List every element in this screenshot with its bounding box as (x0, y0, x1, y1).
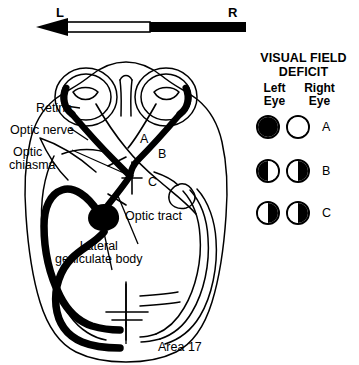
right-lgb-outline (169, 184, 195, 209)
orientation-arrow-graphic (0, 0, 359, 48)
field-circle-c-right-eye (286, 201, 310, 225)
legend-letter-a: A (322, 121, 330, 134)
legend-column-headers: Left Eye Right Eye (252, 82, 342, 108)
field-half-a-right-eye-right (298, 117, 308, 137)
legend-row-c: C (256, 200, 359, 226)
lesion-marker-a: A (140, 133, 148, 146)
field-half-b-left-eye-right (268, 161, 278, 181)
label-optic-tract: Optic tract (125, 210, 182, 223)
field-half-c-right-eye-left (288, 203, 298, 223)
field-half-b-right-eye-left (288, 161, 298, 181)
field-circle-a-right-eye (286, 115, 310, 139)
visual-field-deficit-legend: VISUAL FIELD DEFICIT Left Eye Right Eye (248, 52, 359, 227)
right-lens (154, 88, 179, 100)
legend-header-left-eye-line2: Eye (252, 95, 297, 108)
nasal-bridge-top (120, 76, 132, 81)
label-optic-nerve: Optic nerve (10, 124, 74, 137)
field-half-a-left-eye-left (258, 117, 268, 137)
left-lens (73, 88, 98, 100)
legend-letter-b: B (322, 165, 330, 178)
legend-row-a: A (256, 114, 359, 140)
label-retina: Retina (36, 102, 72, 115)
label-optic-chiasma-line1: Optic (13, 145, 42, 159)
right-medial-sulcus (140, 292, 180, 306)
legend-row-b: B (256, 158, 359, 184)
field-half-c-left-eye-left (258, 203, 268, 223)
visual-pathway-diagram (0, 44, 252, 365)
axis-label-left: L (56, 6, 64, 19)
right-retina-thick (180, 88, 188, 114)
lesion-marker-c: C (148, 176, 157, 189)
field-circle-c-left-eye (256, 201, 280, 225)
label-lgb-line2: geniculate body (55, 253, 143, 266)
figure-root: L R (0, 0, 359, 365)
field-half-b-left-eye-left (258, 161, 268, 181)
legend-title-line2: DEFICIT (248, 66, 359, 80)
midline-nasal-structure (120, 80, 132, 116)
field-half-a-right-eye-left (288, 117, 298, 137)
orientation-arrow: L R (0, 0, 359, 48)
label-optic-chiasma: Optic chiasma (13, 146, 56, 172)
arrow-left-segment (62, 22, 150, 32)
legend-title: VISUAL FIELD DEFICIT (248, 52, 359, 79)
arrow-head (36, 18, 68, 36)
label-optic-chiasma-line2: chiasma (9, 159, 56, 172)
arrow-right-segment (150, 22, 246, 32)
legend-header-right-eye-line1: Right (304, 81, 335, 95)
legend-header-right-eye-line2: Eye (297, 95, 342, 108)
right-cortex-inner-line (140, 334, 156, 337)
legend-title-line1: VISUAL FIELD (260, 51, 346, 65)
field-circle-a-left-eye (256, 115, 280, 139)
right-optic-nerve-thick (130, 114, 180, 176)
legend-letter-c: C (322, 207, 331, 220)
field-half-b-right-eye-right (298, 161, 308, 181)
axis-label-right: R (228, 6, 237, 19)
field-circle-b-left-eye (256, 159, 280, 183)
field-circle-b-right-eye (286, 159, 310, 183)
right-tract-to-lgb (154, 172, 178, 185)
legend-header-right-eye: Right Eye (297, 82, 342, 108)
label-lgb-line1: Lateral (80, 239, 118, 253)
lesion-marker-b: B (158, 148, 166, 161)
label-area-17: Area 17 (158, 341, 202, 354)
field-half-c-left-eye-right (268, 203, 278, 223)
field-half-a-left-eye-right (268, 117, 278, 137)
legend-header-left-eye: Left Eye (252, 82, 297, 108)
field-half-c-right-eye-right (298, 203, 308, 223)
legend-header-left-eye-line1: Left (264, 81, 286, 95)
label-lateral-geniculate-body: Lateral geniculate body (55, 240, 143, 266)
